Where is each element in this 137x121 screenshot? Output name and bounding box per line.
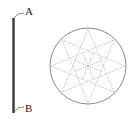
label-a: A	[25, 5, 33, 17]
disc	[50, 28, 126, 104]
label-b: B	[25, 102, 32, 114]
diagram-canvas: A B	[0, 0, 137, 121]
rod	[14, 13, 25, 113]
